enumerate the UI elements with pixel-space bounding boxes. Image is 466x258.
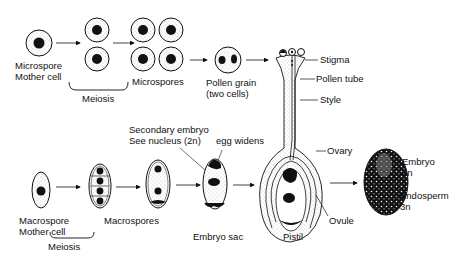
pollen-grain xyxy=(215,47,241,73)
reproduction-diagram xyxy=(0,0,466,258)
label-meiosis-bottom: Meiosis xyxy=(48,241,80,252)
pistil xyxy=(260,49,323,243)
label-embryo-sac: Embryo sac xyxy=(193,231,243,242)
leader-egg xyxy=(218,150,222,161)
label-line: Microspore xyxy=(15,60,62,71)
label-line: Endosperm xyxy=(400,190,449,201)
label-microspores: Microspores xyxy=(132,76,184,87)
label-macrospores: Macrospores xyxy=(104,215,159,226)
label-pollen-grain: Pollen grain (two cells) xyxy=(206,77,256,99)
label-endosperm: Endosperm 3n xyxy=(400,190,449,212)
macrospore-mother-cell xyxy=(32,172,50,208)
label-line: 2n xyxy=(402,167,435,178)
label-line: Pollen grain xyxy=(206,77,256,88)
label-pollen-tube: Pollen tube xyxy=(316,73,364,84)
label-line: (two cells) xyxy=(206,88,256,99)
meiosis-dyad xyxy=(85,18,109,71)
label-line: Embryo xyxy=(402,156,435,167)
label-ovary: Ovary xyxy=(327,145,352,156)
label-egg-widens: egg widens xyxy=(216,135,264,146)
label-line: Mother cell xyxy=(19,226,69,237)
label-ovule: Ovule xyxy=(329,215,354,226)
label-line: Secondary embryo xyxy=(129,124,209,135)
label-pistil: Pistil xyxy=(283,231,303,242)
label-embryo: Embryo 2n xyxy=(402,156,435,178)
microspore-mother-cell xyxy=(26,30,52,56)
microspores-tetrad xyxy=(131,18,183,71)
label-line: Macrospore xyxy=(19,215,69,226)
macrospores-linear-tetrad xyxy=(89,164,111,208)
label-line: See nucleus (2n) xyxy=(129,135,209,146)
label-stigma: Stigma xyxy=(320,54,350,65)
label-macrospore-mother-cell: Macrospore Mother cell xyxy=(19,215,69,237)
leader-secondary-nucleus xyxy=(180,148,205,170)
label-microspore-mother-cell: Microspore Mother cell xyxy=(15,60,62,82)
label-secondary-nucleus: Secondary embryo See nucleus (2n) xyxy=(129,124,209,146)
macrospore-functional xyxy=(146,160,170,208)
label-meiosis-top: Meiosis xyxy=(82,93,114,104)
meiosis-bracket-top xyxy=(69,82,128,90)
label-style: Style xyxy=(320,94,341,105)
label-line: Mother cell xyxy=(15,71,62,82)
embryo-sac xyxy=(203,159,227,209)
label-line: 3n xyxy=(400,201,449,212)
